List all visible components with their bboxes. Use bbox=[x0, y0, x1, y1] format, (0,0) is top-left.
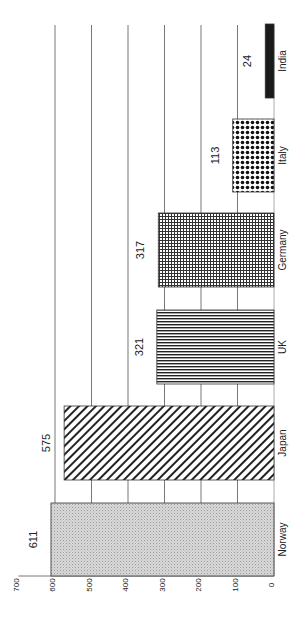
category-label: UK bbox=[277, 340, 288, 354]
bar-norway bbox=[51, 503, 274, 576]
y-tick-label: 200 bbox=[194, 578, 203, 592]
bar-japan bbox=[64, 406, 274, 480]
y-tick-label: 500 bbox=[85, 578, 94, 592]
category-label: Germany bbox=[277, 229, 288, 270]
value-label: 575 bbox=[40, 434, 52, 452]
bar-italy bbox=[233, 119, 274, 192]
category-label: Japan bbox=[277, 429, 288, 456]
value-label: 317 bbox=[134, 241, 146, 259]
value-label: 113 bbox=[209, 147, 221, 165]
category-label: India bbox=[277, 50, 288, 72]
value-label: 24 bbox=[241, 55, 253, 67]
bar-chart: 0100200300400500600700611Norway575Japan3… bbox=[0, 0, 307, 625]
bar-india bbox=[265, 24, 274, 98]
category-label: Norway bbox=[277, 523, 288, 557]
bar-germany bbox=[158, 213, 274, 287]
y-tick-label: 100 bbox=[231, 578, 240, 592]
category-label: Italy bbox=[277, 146, 288, 164]
y-tick-label: 400 bbox=[121, 578, 130, 592]
y-tick-label: 300 bbox=[158, 578, 167, 592]
value-label: 321 bbox=[133, 338, 145, 356]
y-tick-label: 0 bbox=[267, 582, 276, 587]
y-tick-label: 600 bbox=[48, 578, 57, 592]
y-tick-label: 700 bbox=[12, 578, 21, 592]
bar-uk bbox=[157, 310, 274, 384]
value-label: 611 bbox=[27, 531, 39, 549]
plot-area: 0100200300400500600700611Norway575Japan3… bbox=[12, 24, 289, 592]
